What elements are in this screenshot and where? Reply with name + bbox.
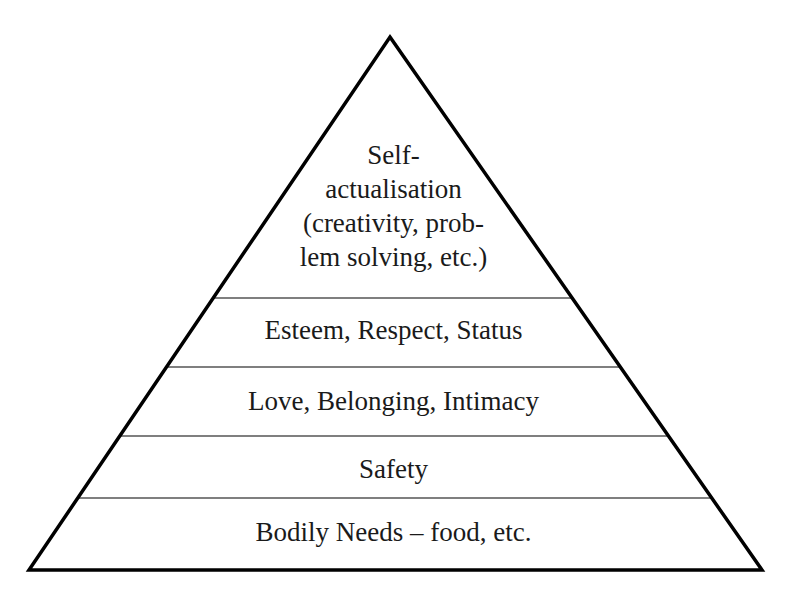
tier-safety: Safety	[0, 452, 787, 486]
pyramid-shape	[0, 0, 787, 601]
pyramid-outline	[29, 37, 762, 570]
tier-esteem: Esteem, Respect, Status	[0, 313, 787, 347]
pyramid-diagram: Self- actualisation (creativity, prob- l…	[0, 0, 787, 601]
tier-self-actualisation-line-2: actualisation	[0, 172, 787, 206]
tier-love: Love, Belonging, Intimacy	[0, 384, 787, 418]
tier-self-actualisation-line-3: (creativity, prob-	[0, 206, 787, 240]
tier-self-actualisation-line-1: Self-	[0, 138, 787, 172]
tier-self-actualisation: Self- actualisation (creativity, prob- l…	[0, 138, 787, 274]
tier-bodily-needs: Bodily Needs – food, etc.	[0, 515, 787, 549]
tier-self-actualisation-line-4: lem solving, etc.)	[0, 240, 787, 274]
